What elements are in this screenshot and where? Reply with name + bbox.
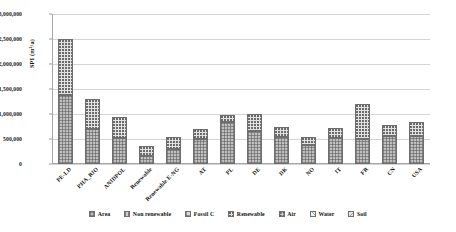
legend-label: Area [98, 211, 111, 217]
legend-item[interactable]: Renewable [228, 211, 264, 217]
bar-segment[interactable] [247, 131, 261, 164]
bar-segment[interactable] [58, 95, 72, 164]
bar-segment[interactable] [409, 136, 423, 165]
bar-segment[interactable] [58, 39, 72, 95]
bar-segment[interactable] [382, 136, 396, 164]
bar-segment[interactable] [193, 129, 207, 140]
legend-item[interactable]: Soil [348, 211, 366, 217]
bar-segment[interactable] [166, 149, 180, 164]
bar-column[interactable] [193, 129, 207, 165]
bar-segment[interactable] [166, 137, 180, 150]
bar-segment[interactable] [382, 125, 396, 136]
y-axis-tick-label: 1,000,000 [0, 111, 22, 117]
y-axis-tick-label: 2,500,000 [0, 36, 22, 42]
bar-column[interactable] [409, 122, 423, 164]
bar-segment[interactable] [355, 104, 369, 139]
bar-column[interactable] [247, 114, 261, 165]
y-axis-tick-mark [49, 89, 52, 90]
bar-segment[interactable] [355, 139, 369, 164]
bar-segment[interactable] [328, 138, 342, 164]
bar-segment[interactable] [220, 115, 234, 122]
y-axis-tick-label: 2,000,000 [0, 61, 22, 67]
legend-item[interactable]: Non renewable [124, 211, 171, 217]
legend-swatch-icon [228, 211, 234, 217]
legend-swatch-icon [348, 211, 354, 217]
bar-column[interactable] [112, 117, 126, 165]
bar-column[interactable] [58, 39, 72, 164]
y-axis-tick-mark [49, 64, 52, 65]
bar-column[interactable] [382, 125, 396, 164]
bar-segment[interactable] [274, 127, 288, 137]
legend-swatch-icon [185, 211, 191, 217]
bar-column[interactable] [85, 99, 99, 164]
chart-legend: AreaNon renewableFossil CRenewableAirWat… [0, 206, 456, 222]
legend-item[interactable]: Air [279, 211, 296, 217]
bar-segment[interactable] [139, 156, 153, 165]
bar-segment[interactable] [85, 129, 99, 164]
bar-column[interactable] [355, 104, 369, 164]
legend-item[interactable]: Area [89, 211, 110, 217]
bar-segment[interactable] [220, 122, 234, 164]
bar-segment[interactable] [193, 139, 207, 164]
legend-swatch-icon [310, 211, 316, 217]
legend-label: Soil [357, 211, 367, 217]
y-axis-tick-label: 3,000,000 [0, 11, 22, 17]
y-axis-tick-label: 0 [0, 161, 22, 167]
y-axis-tick-mark [49, 114, 52, 115]
legend-swatch-icon [279, 211, 285, 217]
legend-label: Non renewable [133, 211, 171, 217]
y-axis-tick-mark [49, 164, 52, 165]
bar-segment[interactable] [301, 145, 315, 164]
y-axis-tick-mark [49, 14, 52, 15]
y-axis-title: SPI (m²/a) [28, 21, 35, 87]
legend-item[interactable]: Fossil C [185, 211, 214, 217]
y-axis-tick-mark [49, 39, 52, 40]
bar-column[interactable] [139, 146, 153, 164]
bars-layer [52, 14, 430, 164]
legend-label: Air [287, 211, 296, 217]
bar-segment[interactable] [409, 122, 423, 136]
legend-swatch-icon [89, 211, 95, 217]
y-axis-tick-mark [49, 139, 52, 140]
bar-column[interactable] [274, 127, 288, 164]
bar-segment[interactable] [247, 114, 261, 132]
legend-label: Fossil C [194, 211, 215, 217]
bar-segment[interactable] [85, 99, 99, 129]
bar-segment[interactable] [328, 128, 342, 138]
legend-label: Renewable [237, 211, 265, 217]
y-axis-tick-label: 500,000 [0, 136, 22, 142]
stacked-bar-chart: SPI (m²/a) 3,000,0002,500,0002,000,0001,… [0, 0, 456, 232]
bar-segment[interactable] [112, 138, 126, 164]
bar-segment[interactable] [301, 137, 315, 146]
x-axis-labels: PE-LDPHA_RIOANIDPOLRenewableRenewable E-… [52, 166, 430, 208]
y-axis-tick-label: 1,500,000 [0, 86, 22, 92]
bar-column[interactable] [328, 128, 342, 164]
bar-segment[interactable] [139, 146, 153, 156]
legend-item[interactable]: Water [310, 211, 334, 217]
bar-segment[interactable] [274, 137, 288, 164]
bar-column[interactable] [166, 137, 180, 165]
bar-column[interactable] [301, 137, 315, 165]
legend-swatch-icon [124, 211, 130, 217]
legend-label: Water [318, 211, 334, 217]
bar-column[interactable] [220, 115, 234, 164]
bar-segment[interactable] [112, 117, 126, 139]
grid-line [52, 164, 430, 165]
